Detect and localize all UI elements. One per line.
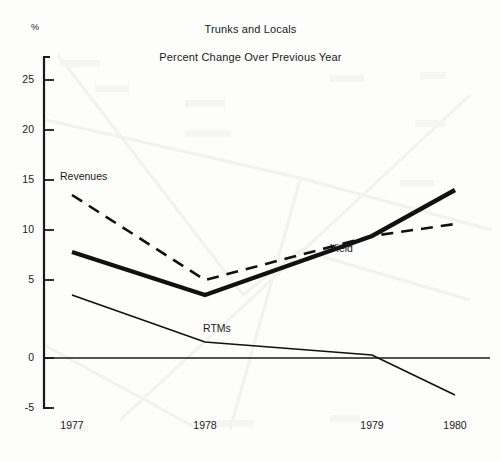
y-tick-label-25: 25	[0, 73, 34, 85]
y-tick-label-10: 10	[0, 223, 34, 235]
series-label-revenues: Revenues	[60, 170, 107, 182]
x-tick-label-1977: 1977	[42, 419, 102, 431]
series-label-yield: Yield	[330, 242, 353, 254]
series-line-yield	[72, 190, 455, 295]
x-tick-label-1978: 1978	[175, 419, 235, 431]
series-line-rtms	[72, 295, 455, 395]
plot-area	[0, 0, 501, 461]
y-tick-label-20: 20	[0, 123, 34, 135]
y-tick-label-5: 5	[0, 273, 34, 285]
series-line-revenues	[72, 195, 455, 280]
y-tick-label-15: 15	[0, 173, 34, 185]
chart-container: Trunks and Locals Percent Change Over Pr…	[0, 0, 501, 461]
x-tick-label-1979: 1979	[342, 419, 402, 431]
x-tick-label-1980: 1980	[425, 419, 485, 431]
y-axis-line	[44, 57, 50, 408]
series-label-rtms: RTMs	[203, 322, 231, 334]
y-tick-label-0: 0	[0, 351, 34, 363]
y-tick-label-minus5: -5	[0, 401, 34, 413]
